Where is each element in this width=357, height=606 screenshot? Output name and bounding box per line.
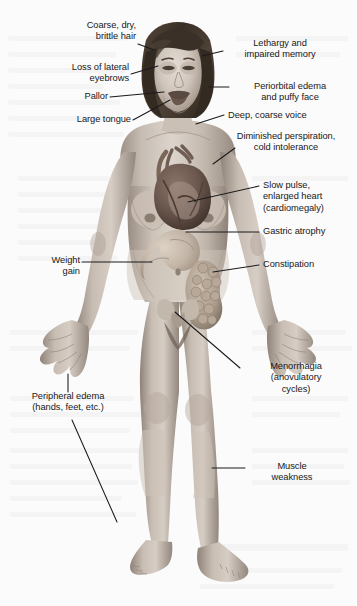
label-weight-gain: Weight gain bbox=[0, 255, 80, 278]
label-diminished-perspiration: Diminished perspiration, cold intoleranc… bbox=[216, 131, 356, 154]
label-coarse-hair: Coarse, dry, brittle hair bbox=[0, 20, 136, 43]
label-peripheral-edema: Peripheral edema (hands, feet, etc.) bbox=[2, 391, 134, 414]
label-menorrhagia: Menorrhagia (anovulatory cycles) bbox=[242, 361, 350, 395]
label-gastric-atrophy: Gastric atrophy bbox=[263, 226, 357, 237]
heart-organ bbox=[154, 164, 211, 230]
label-large-tongue: Large tongue bbox=[0, 114, 131, 125]
label-muscle-weakness: Muscle weakness bbox=[248, 461, 336, 484]
label-slow-pulse: Slow pulse, enlarged heart (cardiomegaly… bbox=[263, 180, 357, 214]
head bbox=[142, 22, 215, 118]
label-constipation: Constipation bbox=[263, 259, 357, 270]
label-deep-voice: Deep, coarse voice bbox=[228, 110, 356, 121]
label-periorbital-edema: Periorbital edema and puffy face bbox=[224, 81, 356, 104]
label-lethargy: Lethargy and impaired memory bbox=[212, 38, 348, 61]
label-loss-eyebrows: Loss of lateral eyebrows bbox=[0, 62, 129, 85]
leader-deep-voice bbox=[196, 115, 224, 124]
leader-peripheral-edema2 bbox=[72, 420, 117, 522]
label-pallor: Pallor bbox=[0, 91, 108, 102]
